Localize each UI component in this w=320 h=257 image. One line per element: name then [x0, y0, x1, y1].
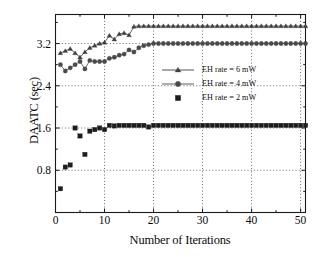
x-tick-label: 40 — [246, 214, 258, 226]
data-point-square — [151, 123, 155, 127]
data-point-square — [83, 152, 87, 156]
data-point-square — [294, 123, 298, 127]
data-point-circle — [200, 41, 204, 45]
data-point-circle — [175, 81, 180, 86]
data-point-circle — [117, 53, 121, 57]
data-point-square — [93, 127, 97, 131]
data-point-circle — [274, 41, 278, 45]
data-point-square — [240, 123, 244, 127]
data-point-square — [58, 187, 62, 191]
data-point-square — [176, 123, 180, 127]
data-point-triangle — [122, 31, 127, 35]
data-point-circle — [230, 41, 234, 45]
data-point-square — [249, 123, 253, 127]
data-point-circle — [151, 41, 155, 45]
data-point-square — [215, 123, 219, 127]
data-point-square — [195, 123, 199, 127]
data-point-square — [73, 126, 77, 130]
data-point-square — [298, 123, 302, 127]
data-point-circle — [225, 41, 229, 45]
plot-area — [0, 0, 320, 257]
data-point-circle — [166, 41, 170, 45]
data-point-circle — [63, 69, 67, 73]
data-point-circle — [112, 55, 116, 59]
data-point-circle — [235, 41, 239, 45]
data-point-square — [78, 134, 82, 138]
data-point-square — [132, 123, 136, 127]
data-point-square — [235, 123, 239, 127]
data-point-square — [137, 123, 141, 127]
data-point-triangle — [68, 47, 73, 51]
data-point-square — [102, 127, 106, 131]
data-point-circle — [259, 41, 263, 45]
data-point-square — [181, 123, 185, 127]
data-point-square — [146, 125, 150, 129]
data-point-square — [210, 123, 214, 127]
data-point-square — [259, 123, 263, 127]
data-point-circle — [249, 41, 253, 45]
data-point-square — [284, 123, 288, 127]
data-point-circle — [176, 41, 180, 45]
data-point-circle — [132, 50, 136, 54]
x-tick-label: 50 — [295, 214, 307, 226]
data-point-square — [122, 123, 126, 127]
data-point-square — [303, 123, 307, 127]
data-point-square — [254, 123, 258, 127]
data-point-square — [244, 123, 248, 127]
data-point-circle — [88, 58, 92, 62]
data-point-circle — [127, 48, 131, 52]
data-point-circle — [161, 41, 165, 45]
data-point-circle — [303, 41, 307, 45]
chart-figure: DAATC (sec) 0.81.62.43.2 01020304050 Num… — [0, 0, 320, 257]
data-point-circle — [279, 41, 283, 45]
data-point-square — [274, 123, 278, 127]
data-point-square — [220, 123, 224, 127]
data-point-circle — [181, 41, 185, 45]
data-point-circle — [58, 62, 62, 66]
legend-marker-square-icon — [158, 91, 198, 105]
data-point-circle — [244, 41, 248, 45]
data-point-circle — [205, 41, 209, 45]
data-point-circle — [93, 59, 97, 63]
x-axis-label: Number of Iterations — [55, 233, 305, 248]
data-point-circle — [146, 42, 150, 46]
legend-marker-circle-icon — [158, 77, 198, 91]
data-point-square — [88, 129, 92, 133]
data-point-circle — [215, 41, 219, 45]
data-point-square — [186, 123, 190, 127]
data-point-circle — [240, 41, 244, 45]
data-point-square — [112, 124, 116, 128]
data-point-circle — [210, 41, 214, 45]
data-point-circle — [298, 41, 302, 45]
legend-label: EH rate = 2 mW — [202, 91, 256, 105]
data-point-square — [289, 123, 293, 127]
data-point-circle — [73, 62, 77, 66]
data-point-square — [230, 123, 234, 127]
data-point-square — [63, 165, 67, 169]
data-point-circle — [284, 41, 288, 45]
data-point-square — [68, 163, 72, 167]
data-point-circle — [78, 59, 82, 63]
data-point-circle — [289, 41, 293, 45]
series-3 — [58, 123, 307, 191]
data-point-circle — [195, 41, 199, 45]
data-point-square — [142, 123, 146, 127]
data-point-square — [264, 123, 268, 127]
data-point-square — [161, 123, 165, 127]
data-point-square — [166, 123, 170, 127]
data-point-circle — [254, 41, 258, 45]
data-point-square — [127, 123, 131, 127]
data-point-square — [156, 123, 160, 127]
data-point-square — [97, 126, 101, 130]
data-point-circle — [269, 41, 273, 45]
legend-label: EH rate = 4 mW — [202, 77, 256, 91]
data-point-circle — [137, 46, 141, 50]
data-point-circle — [107, 56, 111, 60]
data-point-square — [191, 123, 195, 127]
data-point-triangle — [107, 33, 112, 37]
data-point-circle — [220, 41, 224, 45]
data-point-square — [117, 123, 121, 127]
data-point-circle — [186, 41, 190, 45]
data-point-circle — [142, 43, 146, 47]
legend-marker-triangle-icon — [158, 63, 198, 77]
